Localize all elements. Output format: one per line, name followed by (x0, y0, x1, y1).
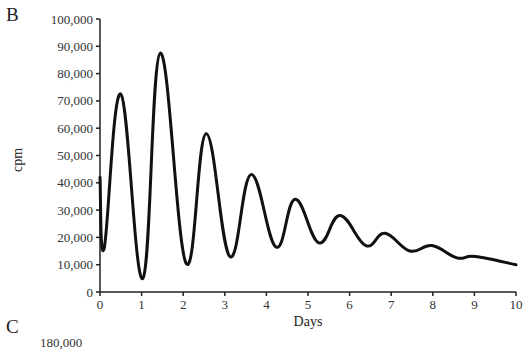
y-tick-label: 30,000 (57, 203, 93, 218)
x-axis-title: Days (294, 314, 323, 329)
y-tick-label: 100,000 (51, 12, 93, 27)
x-tick-label: 10 (510, 297, 523, 312)
cpm-curve (100, 53, 516, 279)
x-tick-label: 4 (263, 297, 270, 312)
y-tick-label: 50,000 (57, 148, 93, 163)
y-tick-label: 20,000 (57, 230, 93, 245)
y-tick-label: 10,000 (57, 257, 93, 272)
x-tick-label: 5 (305, 297, 312, 312)
x-tick-label: 8 (430, 297, 437, 312)
y-tick-label: 70,000 (57, 93, 93, 108)
x-tick-label: 7 (388, 297, 395, 312)
y-axis-title: cpm (10, 148, 25, 172)
y-tick-label: 90,000 (57, 39, 93, 54)
y-tick-label: 80,000 (57, 66, 93, 81)
x-tick-label: 0 (97, 297, 104, 312)
x-tick-label: 2 (180, 297, 187, 312)
x-tick-label: 1 (138, 297, 145, 312)
y-axis-ticks: 010,00020,00030,00040,00050,00060,00070,… (51, 12, 100, 300)
x-tick-label: 3 (222, 297, 229, 312)
y-tick-label: 0 (87, 285, 94, 300)
x-tick-label: 9 (471, 297, 478, 312)
y-tick-label: 40,000 (57, 175, 93, 190)
x-tick-label: 6 (346, 297, 353, 312)
x-axis-ticks: 012345678910 (97, 292, 523, 312)
y-tick-label: 60,000 (57, 121, 93, 136)
